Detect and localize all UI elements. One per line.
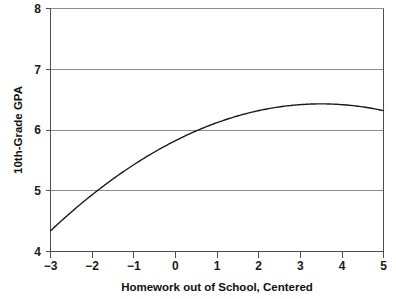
y-axis-title: 10th-Grade GPA — [12, 86, 24, 174]
x-tick-label-2: 2 — [255, 259, 262, 273]
x-tick-label--3: −3 — [44, 259, 58, 273]
x-tick-label-3: 3 — [297, 259, 304, 273]
x-tick-label--1: −1 — [127, 259, 141, 273]
x-axis-title: Homework out of School, Centered — [121, 281, 313, 293]
y-tick-label-8: 8 — [34, 2, 41, 16]
x-tick-label--2: −2 — [85, 259, 99, 273]
x-tick-label-4: 4 — [339, 259, 346, 273]
x-tick-label-5: 5 — [380, 259, 387, 273]
chart-figure: 8 7 6 5 4 −3 −2 −1 0 1 2 3 4 5 10th-Grad… — [0, 0, 396, 299]
y-tick-label-6: 6 — [34, 123, 41, 137]
x-tick-label-0: 0 — [172, 259, 179, 273]
y-tick-label-7: 7 — [34, 63, 41, 77]
y-tick-label-4: 4 — [34, 245, 41, 259]
x-tick-label-1: 1 — [214, 259, 221, 273]
chart-background — [0, 0, 396, 299]
gpa-homework-line-chart: 8 7 6 5 4 −3 −2 −1 0 1 2 3 4 5 10th-Grad… — [0, 0, 396, 299]
y-tick-label-5: 5 — [34, 184, 41, 198]
